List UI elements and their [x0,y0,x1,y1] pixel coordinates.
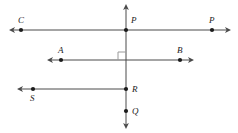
point-p-right [210,28,214,32]
point-b [178,58,182,62]
label-a: A [57,45,64,55]
label-p-center: P [130,15,137,25]
label-s: S [30,93,35,103]
point-q [124,109,128,113]
label-q: Q [132,106,139,116]
geometry-canvas: C P P A B S R Q [0,0,238,133]
label-r: R [131,84,138,94]
point-r [124,87,128,91]
point-s [31,87,35,91]
lines-group [9,4,231,129]
geometry-diagram: C P P A B S R Q [0,0,238,133]
label-p-right: P [208,15,215,25]
label-b: B [177,45,183,55]
point-c [19,28,23,32]
right-angle-mark [118,52,126,60]
point-a [59,58,63,62]
point-p-center [124,28,128,32]
label-c: C [18,15,25,25]
points-group [19,28,214,113]
